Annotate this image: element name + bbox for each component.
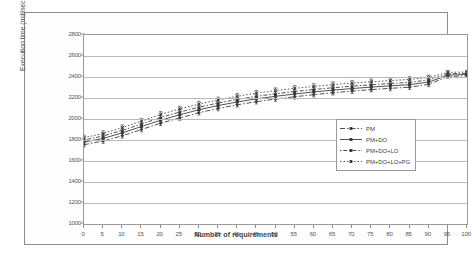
x-tick-mark xyxy=(121,225,122,228)
x-tick-mark xyxy=(160,225,161,228)
x-tick-mark xyxy=(179,225,180,228)
x-tick-mark xyxy=(275,225,276,228)
x-tick-mark xyxy=(370,225,371,228)
x-tick-mark xyxy=(102,225,103,228)
x-tick-mark xyxy=(466,225,467,228)
x-tick-mark xyxy=(428,225,429,228)
legend-label: PM xyxy=(366,126,375,132)
x-tick-mark xyxy=(140,225,141,228)
legend-swatch-icon xyxy=(340,146,362,155)
legend-item-pm-do: PM+DO xyxy=(340,134,410,145)
legend-item-pm: PM xyxy=(340,123,410,134)
x-tick-mark xyxy=(351,225,352,228)
gridline xyxy=(84,77,467,78)
x-tick-mark xyxy=(83,225,84,228)
x-tick-mark xyxy=(217,225,218,228)
legend-swatch-icon xyxy=(340,124,362,133)
legend-item-pm-do-lo: PM+DO+LO xyxy=(340,145,410,156)
x-tick-mark xyxy=(255,225,256,228)
legend-label: PM+DO+LO xyxy=(366,148,398,154)
y-tick-label: 1400 xyxy=(47,178,81,184)
y-tick-label: 1000 xyxy=(47,220,81,226)
x-tick-mark xyxy=(389,225,390,228)
x-tick-mark xyxy=(198,225,199,228)
y-tick-label: 2400 xyxy=(47,73,81,79)
legend-swatch-icon xyxy=(340,157,362,166)
x-axis-title: Number of requirements xyxy=(25,231,447,238)
x-tick-mark xyxy=(313,225,314,228)
y-tick-label: 2200 xyxy=(47,94,81,100)
legend-label: PM+DO xyxy=(366,137,387,143)
gridline xyxy=(84,56,467,57)
y-tick-label: 1800 xyxy=(47,136,81,142)
gridline xyxy=(84,98,467,99)
x-tick-mark xyxy=(294,225,295,228)
y-tick-label: 2600 xyxy=(47,52,81,58)
legend-item-pm-do-lo-pg: PM+DO+LO+PG xyxy=(340,156,410,167)
plot-area: PMPM+DOPM+DO+LOPM+DO+LO+PG xyxy=(83,34,468,225)
y-tick-label: 1600 xyxy=(47,157,81,163)
chart-legend: PMPM+DOPM+DO+LOPM+DO+LO+PG xyxy=(336,119,416,171)
x-tick-label: 100 xyxy=(461,231,470,237)
y-tick-label: 1200 xyxy=(47,199,81,205)
y-axis-title: Execution time (milliseconds) xyxy=(19,0,26,71)
x-tick-mark xyxy=(332,225,333,228)
x-tick-mark xyxy=(447,225,448,228)
gridline xyxy=(84,182,467,183)
legend-swatch-icon xyxy=(340,135,362,144)
x-tick-mark xyxy=(409,225,410,228)
chart-frame: Execution time (milliseconds) 1000120014… xyxy=(24,12,448,245)
y-tick-label: 2800 xyxy=(47,31,81,37)
x-tick-mark xyxy=(236,225,237,228)
legend-label: PM+DO+LO+PG xyxy=(366,159,410,165)
y-tick-label: 2000 xyxy=(47,115,81,121)
gridline xyxy=(84,203,467,204)
y-axis-ticks: 1000120014001600180020002200240026002800 xyxy=(43,34,81,225)
